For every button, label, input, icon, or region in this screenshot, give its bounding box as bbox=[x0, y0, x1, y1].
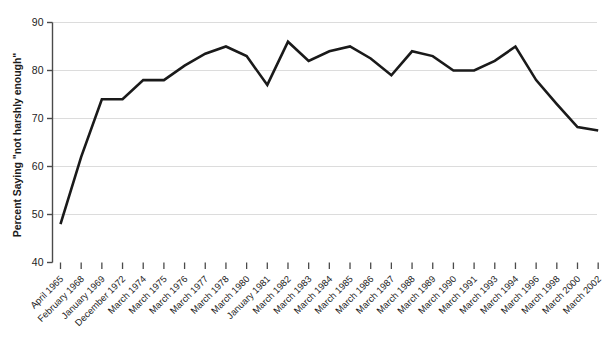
y-tick-label-80: 80 bbox=[32, 64, 44, 76]
y-tick-label-70: 70 bbox=[32, 112, 44, 124]
gridlines-group bbox=[53, 23, 598, 263]
data-line bbox=[61, 42, 599, 224]
y-tick-label-90: 90 bbox=[32, 16, 44, 28]
data-series-group bbox=[61, 42, 599, 224]
y-tick-label-40: 40 bbox=[32, 256, 44, 268]
chart-container: Percent Saying "not harshly enough" 4050… bbox=[0, 0, 605, 357]
y-axis-group: 405060708090 bbox=[32, 16, 53, 268]
y-tick-label-60: 60 bbox=[32, 160, 44, 172]
line-chart-plot: 405060708090 April 1965February 1968Janu… bbox=[0, 0, 605, 357]
y-tick-label-50: 50 bbox=[32, 208, 44, 220]
x-axis-group: April 1965February 1968January 1969Decem… bbox=[28, 263, 603, 329]
